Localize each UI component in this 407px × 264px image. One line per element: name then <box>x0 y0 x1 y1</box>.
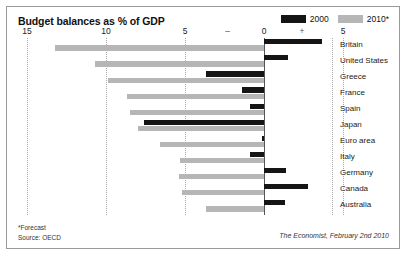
source-note: Source: OECD <box>18 233 61 242</box>
chart-screenshot: Budget balances as % of GDP 2000 2010* 1… <box>0 0 407 264</box>
publication-credit: The Economist, February 2nd 2010 <box>279 232 389 239</box>
legend-swatch-2010 <box>338 15 363 23</box>
chart-footnotes: *Forecast Source: OECD <box>18 223 61 242</box>
legend-label-2010: 2010* <box>367 14 389 24</box>
chart-frame <box>6 6 400 249</box>
forecast-note: *Forecast <box>18 223 61 232</box>
legend-item-2000: 2000 <box>281 14 329 24</box>
chart-legend: 2000 2010* <box>281 14 389 24</box>
legend-item-2010: 2010* <box>338 14 389 24</box>
chart-title: Budget balances as % of GDP <box>18 15 165 27</box>
legend-label-2000: 2000 <box>310 14 329 24</box>
legend-swatch-2000 <box>281 15 306 23</box>
